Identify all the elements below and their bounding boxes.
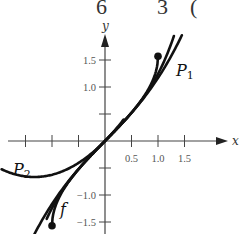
endpoint-dot	[154, 52, 162, 60]
endpoint-dot	[48, 222, 56, 230]
x-tick-label: 1.0	[151, 153, 164, 164]
x-tick-label: 0.5	[125, 153, 138, 164]
label-p1: P1	[175, 61, 194, 82]
y-axis-arrow-icon	[101, 34, 109, 47]
axes: xy0.51.01.5−1.5−1.01.01.5	[8, 19, 239, 234]
function-plot: xy0.51.01.5−1.5−1.01.01.5 P1P2f	[0, 0, 239, 234]
y-tick-label: 1.5	[83, 55, 96, 66]
x-axis-label: x	[232, 134, 239, 148]
y-tick-label: −1.5	[77, 217, 96, 228]
series-higher-order	[47, 36, 174, 219]
x-tick-label: 1.5	[178, 153, 191, 164]
y-tick-label: −1.0	[77, 190, 96, 201]
label-f: f	[59, 200, 69, 219]
y-axis-label: y	[101, 19, 109, 33]
x-axis-arrow-icon	[216, 137, 228, 145]
y-tick-label: 1.0	[83, 82, 96, 93]
label-p2: P2	[12, 160, 31, 181]
